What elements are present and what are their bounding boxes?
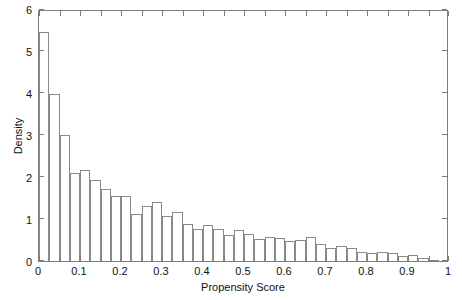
y-tick: [442, 176, 447, 177]
x-tick-label: 1: [445, 265, 451, 277]
histogram-bar: [111, 196, 121, 261]
x-tick: [408, 256, 409, 261]
y-tick: [442, 92, 447, 93]
histogram-bar: [254, 239, 264, 261]
x-tick: [183, 256, 184, 261]
x-tick: [121, 11, 122, 16]
x-tick: [60, 11, 61, 16]
histogram-bar: [336, 246, 346, 261]
histogram-bar: [234, 230, 244, 261]
x-tick: [367, 11, 368, 16]
histogram-bar: [244, 234, 254, 261]
histogram-bar: [213, 229, 223, 261]
histogram-bar: [285, 241, 295, 261]
histogram-bar: [203, 225, 213, 261]
histogram-bar: [347, 248, 357, 261]
histogram-bar: [316, 244, 326, 261]
histogram-bar: [49, 94, 59, 261]
x-tick: [367, 256, 368, 261]
x-tick: [224, 256, 225, 261]
x-tick: [60, 256, 61, 261]
histogram-bar: [80, 170, 90, 261]
histogram-bar: [70, 173, 80, 261]
x-tick-label: 0.9: [399, 265, 414, 277]
x-tick: [347, 256, 348, 261]
x-tick-label: 0.7: [317, 265, 332, 277]
histogram-bar: [172, 212, 182, 261]
histogram-bar: [398, 256, 408, 261]
x-tick: [121, 256, 122, 261]
x-tick: [429, 256, 430, 261]
x-tick: [80, 256, 81, 261]
y-tick: [39, 218, 44, 219]
histogram-bar: [90, 180, 100, 261]
histogram-bar: [121, 196, 131, 261]
y-tick: [39, 9, 44, 10]
y-tick: [39, 92, 44, 93]
histogram-bar: [131, 214, 141, 261]
histogram-figure: 00.10.20.30.40.50.60.70.80.91 0123456 Pr…: [0, 0, 462, 300]
x-tick: [142, 256, 143, 261]
y-tick: [442, 260, 447, 261]
x-tick: [203, 256, 204, 261]
y-tick: [442, 9, 447, 10]
histogram-bar: [418, 258, 428, 261]
x-tick-label: 0: [35, 265, 41, 277]
histogram-bar: [265, 237, 275, 261]
x-tick-label: 0.4: [194, 265, 209, 277]
histogram-bars: [39, 11, 447, 261]
y-tick: [442, 218, 447, 219]
histogram-bar: [408, 255, 418, 261]
x-tick-label: 0.6: [276, 265, 291, 277]
y-tick: [39, 260, 44, 261]
histogram-bar: [101, 189, 111, 261]
y-tick-label: 6: [26, 4, 32, 16]
x-tick-label: 0.2: [112, 265, 127, 277]
x-tick: [388, 256, 389, 261]
y-tick: [39, 50, 44, 51]
x-tick-label: 0.8: [358, 265, 373, 277]
x-tick: [285, 256, 286, 261]
y-tick: [442, 50, 447, 51]
x-tick: [306, 11, 307, 16]
x-tick: [162, 256, 163, 261]
x-tick: [265, 256, 266, 261]
x-tick: [388, 11, 389, 16]
histogram-bar: [224, 235, 234, 261]
x-tick: [408, 11, 409, 16]
histogram-bar: [193, 229, 203, 261]
y-tick: [39, 176, 44, 177]
histogram-bar: [388, 253, 398, 261]
x-tick: [448, 256, 449, 261]
histogram-bar: [275, 238, 285, 261]
histogram-bar: [326, 248, 336, 261]
histogram-bar: [357, 252, 367, 261]
x-tick-label: 0.5: [235, 265, 250, 277]
x-tick: [448, 11, 449, 16]
x-tick: [39, 11, 40, 16]
x-tick: [347, 11, 348, 16]
histogram-bar: [142, 206, 152, 261]
histogram-bar: [429, 260, 439, 261]
x-axis-label: Propensity Score: [201, 281, 285, 293]
x-tick: [244, 256, 245, 261]
histogram-bar: [152, 202, 162, 261]
y-tick-label: 3: [26, 130, 32, 142]
x-tick: [265, 11, 266, 16]
x-tick: [162, 11, 163, 16]
y-axis-label: Density: [12, 96, 24, 176]
plot-area: [38, 10, 448, 262]
histogram-bar: [377, 252, 387, 261]
histogram-bar: [367, 253, 377, 261]
x-tick: [142, 11, 143, 16]
x-tick-label: 0.1: [71, 265, 86, 277]
histogram-bar: [183, 224, 193, 261]
x-tick: [326, 256, 327, 261]
x-tick: [183, 11, 184, 16]
y-tick: [442, 134, 447, 135]
y-tick-label: 4: [26, 88, 32, 100]
histogram-bar: [162, 216, 172, 261]
x-tick: [429, 11, 430, 16]
x-tick: [285, 11, 286, 16]
x-tick: [244, 11, 245, 16]
